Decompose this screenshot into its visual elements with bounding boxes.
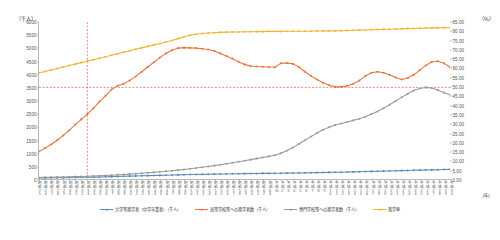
data-point: [274, 66, 276, 68]
data-point: [249, 159, 251, 161]
y-axis-right-tick-label: 0.00: [453, 178, 462, 183]
data-point: [123, 83, 125, 85]
x-axis-tick-label: 平成22: [401, 181, 405, 196]
x-axis-title: （年）: [480, 192, 492, 198]
data-point: [147, 45, 149, 47]
y-axis-right-tick-mark: [450, 31, 452, 32]
data-point: [425, 169, 427, 171]
data-point: [68, 65, 70, 67]
data-point: [135, 75, 137, 77]
y-axis-tick-mark: [37, 87, 39, 88]
x-axis-tick-label: 昭和58: [237, 181, 241, 196]
data-point: [44, 147, 46, 149]
data-point: [86, 113, 88, 115]
data-point: [86, 60, 88, 62]
data-point: [189, 168, 191, 170]
y-axis-right-tick-label: 85.00: [453, 20, 465, 25]
x-axis-tick-label: 昭和34: [92, 181, 96, 196]
x-axis-tick-mark: [342, 179, 343, 181]
data-point: [207, 165, 209, 167]
x-axis-tick-label: 昭和60: [249, 181, 253, 196]
x-axis-tick-label: 昭和62: [261, 181, 265, 196]
data-point: [431, 169, 433, 171]
x-axis-tick-mark: [330, 179, 331, 181]
data-point: [352, 83, 354, 85]
data-point: [243, 173, 245, 175]
x-axis-tick-mark: [148, 179, 149, 181]
data-point: [292, 30, 294, 32]
data-point: [389, 170, 391, 172]
x-axis-tick-mark: [166, 179, 167, 181]
data-point: [382, 170, 384, 172]
data-point: [243, 63, 245, 65]
x-axis-tick-mark: [275, 179, 276, 181]
y-axis-right-tick-mark: [450, 114, 452, 115]
legend-item[interactable]: 専門学校等への進学者数（千人）: [284, 206, 359, 212]
legend-item[interactable]: 進学率: [373, 206, 400, 212]
data-point: [98, 175, 100, 177]
data-point: [346, 29, 348, 31]
data-point: [129, 175, 131, 177]
data-point: [249, 65, 251, 67]
data-point: [449, 27, 450, 29]
x-axis-tick-label: 平成29: [443, 181, 447, 196]
x-axis-tick-mark: [94, 179, 95, 181]
data-point: [292, 63, 294, 65]
y-axis-tick-mark: [37, 74, 39, 75]
data-point: [165, 174, 167, 176]
data-point: [364, 29, 366, 31]
data-point: [298, 66, 300, 68]
legend-item[interactable]: 高等学校等への進学者数（千人）: [195, 206, 270, 212]
data-point: [237, 61, 239, 63]
data-point: [425, 86, 427, 88]
data-point: [231, 162, 233, 164]
legend-label: 専門学校等への進学者数（千人）: [299, 206, 359, 212]
x-axis-tick-label: 昭和59: [243, 181, 247, 196]
x-axis-tick-mark: [39, 179, 40, 181]
plot-area: 0500100015002000250030003500400045005000…: [38, 22, 450, 180]
x-axis-tick-mark: [366, 179, 367, 181]
x-axis-tick-label: 昭和30: [67, 181, 71, 196]
data-point: [207, 48, 209, 50]
y-axis-right-tick-mark: [450, 133, 452, 134]
data-point: [413, 27, 415, 29]
data-point: [92, 59, 94, 61]
series-1: [39, 168, 450, 179]
chart-legend: 大学等進学者（中学卒業者）（千人）高等学校等への進学者数（千人）専門学校等への進…: [0, 206, 500, 212]
data-point: [183, 36, 185, 38]
x-axis-tick-mark: [378, 179, 379, 181]
data-point: [177, 47, 179, 49]
data-point: [262, 172, 264, 174]
x-axis-tick-mark: [403, 179, 404, 181]
x-axis-tick-label: 昭和47: [170, 181, 174, 196]
data-point: [62, 135, 64, 137]
legend-color-swatch: [100, 209, 113, 210]
x-axis-tick-mark: [57, 179, 58, 181]
data-point: [195, 167, 197, 169]
y-axis-right-tick-label: 75.00: [453, 38, 465, 43]
x-axis-tick-label: 平成7: [310, 181, 314, 192]
data-point: [316, 172, 318, 174]
x-axis-tick-label: 平成8: [316, 181, 320, 192]
data-point: [382, 72, 384, 74]
x-axis-tick-mark: [51, 179, 52, 181]
legend-item[interactable]: 大学等進学者（中学卒業者）（千人）: [100, 206, 181, 212]
data-point: [225, 55, 227, 57]
y-axis-right-tick-label: 50.00: [453, 85, 465, 90]
x-axis-tick-label: 平成25: [419, 181, 423, 196]
data-point: [177, 174, 179, 176]
x-axis-tick-mark: [421, 179, 422, 181]
x-axis-tick-mark: [154, 179, 155, 181]
data-point: [274, 154, 276, 156]
data-point: [322, 129, 324, 131]
x-axis-tick-label: 平成15: [358, 181, 362, 196]
data-point: [219, 164, 221, 166]
x-axis-tick-label: 平成17: [370, 181, 374, 196]
x-axis-tick-mark: [384, 179, 385, 181]
data-point: [262, 66, 264, 68]
data-point: [376, 29, 378, 31]
data-point: [316, 30, 318, 32]
data-point: [340, 122, 342, 124]
data-point: [401, 96, 403, 98]
data-point: [104, 56, 106, 58]
